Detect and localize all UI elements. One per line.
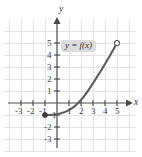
- xtick-label-1: 1: [67, 107, 72, 116]
- plot-canvas: [0, 0, 142, 157]
- xtick-label-neg2: -2: [27, 107, 35, 116]
- y-axis-label: y: [59, 5, 63, 15]
- function-label: y = f(x): [61, 40, 96, 52]
- graph-figure: -3 -2 -1 1 2 3 4 5 5 4 3 2 1 -1 -2 -3 y …: [0, 0, 142, 157]
- ytick-label-neg3: -3: [44, 135, 52, 144]
- ytick-label-3: 3: [47, 63, 52, 72]
- ytick-label-4: 4: [47, 51, 52, 60]
- ytick-label-1: 1: [47, 87, 52, 96]
- ytick-label-2: 2: [47, 75, 52, 84]
- ytick-label-neg1: -1: [49, 111, 57, 120]
- y-axis-arrowhead: [53, 17, 60, 24]
- xtick-label-neg3: -3: [15, 107, 23, 116]
- xtick-label-5: 5: [115, 107, 120, 116]
- grid-lines: [4, 19, 136, 151]
- ytick-label-5: 5: [47, 39, 52, 48]
- curve-open-endpoint: [115, 41, 120, 46]
- xtick-label-4: 4: [103, 107, 108, 116]
- xtick-label-3: 3: [91, 107, 96, 116]
- ytick-label-neg2: -2: [44, 123, 52, 132]
- xtick-label-neg1: -1: [39, 107, 47, 116]
- xtick-label-2: 2: [79, 107, 84, 116]
- x-axis-label: x: [134, 98, 138, 108]
